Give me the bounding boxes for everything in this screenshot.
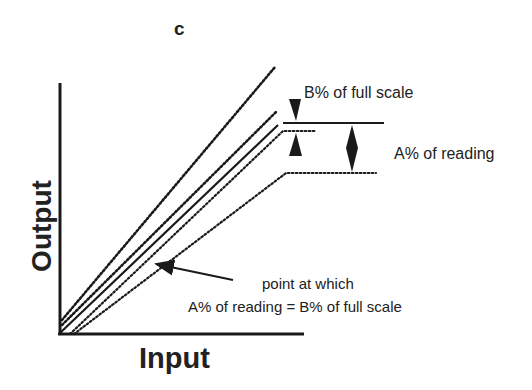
a-percent-annotation: A% of reading xyxy=(394,145,495,163)
outer-upper-bound-line xyxy=(62,67,275,320)
y-axis-label: Output xyxy=(26,166,58,286)
b-arrow-up-icon xyxy=(289,133,302,156)
pointer-annotation-line2: A% of reading = B% of full scale xyxy=(188,298,402,315)
x-axis-label: Input xyxy=(139,342,210,375)
inner-upper-bound-line xyxy=(62,112,276,325)
b-percent-annotation: B% of full scale xyxy=(304,84,413,102)
diagram-canvas xyxy=(0,0,532,390)
pointer-arrow xyxy=(156,264,233,280)
pointer-annotation-line1: point at which xyxy=(262,275,354,292)
a-double-arrow-icon xyxy=(346,125,358,172)
panel-label: c xyxy=(174,18,185,40)
b-arrow-down-icon xyxy=(289,99,301,121)
